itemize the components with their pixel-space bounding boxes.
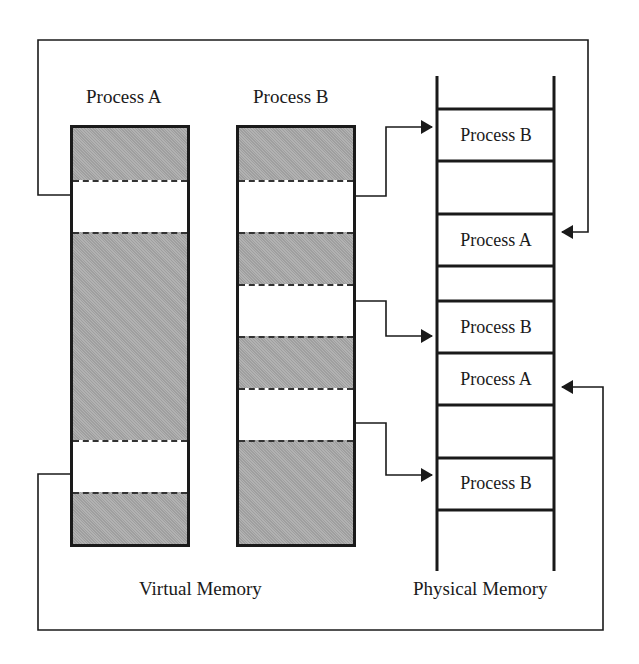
process-b-page-used [239, 440, 353, 544]
physical-slot-label: Process B [438, 474, 554, 492]
process-b-label: Process B [253, 87, 328, 106]
physical-memory-label: Physical Memory [413, 579, 548, 598]
virtual-memory-diagram: Process A Process B Process B Process A … [0, 0, 639, 664]
process-b-page-mapped [239, 284, 353, 336]
process-b-virtual-memory [236, 125, 356, 547]
process-b-page-used [239, 336, 353, 388]
physical-slot-label: Process A [438, 231, 554, 249]
arrow-b3-to-phys-b3 [356, 423, 432, 475]
process-b-page-mapped [239, 180, 353, 232]
process-b-page-used [239, 128, 353, 180]
physical-memory-dividers [437, 109, 554, 510]
process-a-virtual-memory [70, 125, 190, 547]
arrow-b1-to-phys-b1 [356, 127, 432, 196]
physical-slot-label: Process B [438, 318, 554, 336]
physical-slot-label: Process B [438, 126, 554, 144]
process-a-page-mapped [73, 180, 187, 232]
process-a-page-mapped [73, 440, 187, 492]
process-b-page-used [239, 232, 353, 284]
physical-slot-label: Process A [438, 370, 554, 388]
arrow-b2-to-phys-b2 [356, 301, 432, 336]
virtual-memory-label: Virtual Memory [139, 579, 262, 598]
process-a-page-used [73, 232, 187, 440]
process-a-page-used [73, 492, 187, 544]
process-a-label: Process A [86, 87, 161, 106]
process-b-page-mapped [239, 388, 353, 440]
process-a-page-used [73, 128, 187, 180]
